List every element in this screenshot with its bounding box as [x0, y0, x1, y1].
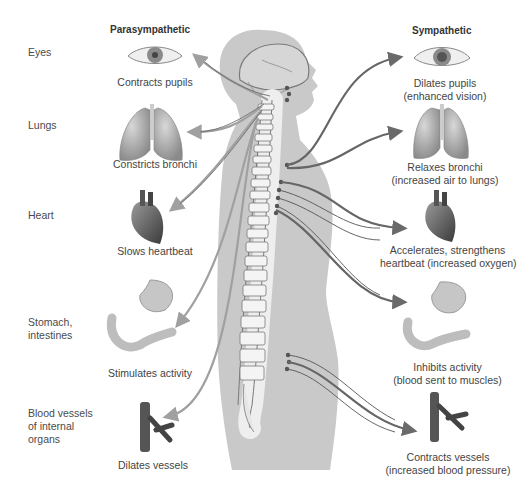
organ-label-blood-vessels: Blood vessels of internal organs: [28, 407, 93, 446]
symp-caption-heart-line1: Accelerates, strengthens: [380, 244, 515, 257]
organ-label-stomach-line2: intestines: [28, 329, 72, 342]
lungs-icon-right: [414, 104, 469, 159]
para-caption-lungs: Constricts bronchi: [100, 158, 210, 171]
symp-caption-heart: Accelerates, strengthens heartbeat (incr…: [380, 244, 515, 270]
organ-label-heart: Heart: [28, 209, 54, 222]
symp-caption-eyes-line1: Dilates pupils: [385, 77, 505, 90]
symp-caption-blood-vessels-line1: Contracts vessels: [378, 451, 518, 464]
header-parasympathetic: Parasympathetic: [110, 24, 190, 35]
para-caption-eyes: Contracts pupils: [100, 76, 210, 89]
blood-vessels-icon-right: [430, 392, 466, 442]
para-caption-stomach: Stimulates activity: [95, 367, 205, 380]
symp-caption-lungs-line2: (increased air to lungs): [385, 174, 505, 187]
organ-label-blood-vessels-line1: Blood vessels: [28, 407, 93, 420]
symp-caption-eyes: Dilates pupils (enhanced vision): [385, 77, 505, 103]
symp-caption-blood-vessels: Contracts vessels (increased blood press…: [378, 451, 518, 477]
heart-icon-right: [425, 190, 455, 242]
organ-label-blood-vessels-line3: organs: [28, 433, 93, 446]
symp-caption-stomach-line2: (blood sent to muscles): [385, 374, 510, 387]
organ-label-lungs: Lungs: [28, 119, 57, 132]
symp-caption-eyes-line2: (enhanced vision): [385, 90, 505, 103]
organ-label-blood-vessels-line2: of internal: [28, 420, 93, 433]
para-caption-blood-vessels: Dilates vessels: [98, 459, 208, 472]
lungs-icon-left: [120, 104, 182, 161]
symp-caption-lungs: Relaxes bronchi (increased air to lungs): [385, 161, 505, 187]
symp-caption-lungs-line1: Relaxes bronchi: [385, 161, 505, 174]
symp-caption-stomach-line1: Inhibits activity: [385, 361, 510, 374]
para-caption-heart: Slows heartbeat: [100, 245, 210, 258]
blood-vessels-icon-left: [140, 402, 172, 452]
symp-caption-stomach: Inhibits activity (blood sent to muscles…: [385, 361, 510, 387]
symp-caption-heart-line2: heartbeat (increased oxygen): [380, 257, 515, 270]
stomach-intestines-icon-left: [111, 280, 172, 347]
header-sympathetic: Sympathetic: [412, 25, 471, 36]
organ-label-stomach-line1: Stomach,: [28, 316, 72, 329]
symp-caption-blood-vessels-line2: (increased blood pressure): [378, 464, 518, 477]
eye-icon-left: [128, 47, 182, 64]
organ-label-eyes: Eyes: [28, 46, 51, 59]
organ-label-stomach: Stomach, intestines: [28, 316, 72, 342]
heart-icon-left: [131, 190, 163, 244]
eye-icon-right: [414, 48, 470, 67]
stomach-intestines-icon-right: [407, 282, 466, 346]
